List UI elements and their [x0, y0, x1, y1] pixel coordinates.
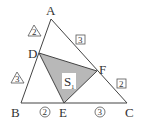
- vertex-b-label: B: [11, 105, 20, 120]
- vertex-d-label: D: [28, 46, 37, 61]
- s1-subscript: 1: [71, 83, 75, 91]
- vertex-c-label: C: [125, 105, 134, 120]
- ratio-af: 3: [78, 35, 83, 45]
- vertex-f-label: F: [99, 62, 106, 77]
- vertex-a-label: A: [46, 3, 56, 18]
- ratio-be: 2: [43, 107, 48, 117]
- ratio-ec: 3: [98, 107, 103, 117]
- ratio-db: 3: [15, 74, 20, 84]
- ratio-ad: 2: [32, 27, 37, 37]
- ratio-fc: 2: [119, 79, 124, 89]
- triangle-diagram: A D B E C F S 1 2 3 3 2 2 3: [0, 0, 143, 126]
- vertex-e-label: E: [59, 105, 67, 120]
